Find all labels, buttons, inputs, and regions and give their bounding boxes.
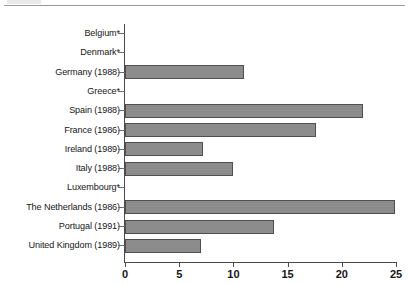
category-label: Portugal (1991) <box>4 217 120 236</box>
category-label: Germany (1988) <box>4 63 120 82</box>
x-axis-line <box>124 262 396 263</box>
bar <box>125 104 363 118</box>
x-axis-tick-label: 10 <box>213 268 253 280</box>
category-label: The Netherlands (1986) <box>4 198 120 217</box>
y-axis-tick <box>118 187 125 188</box>
y-axis-tick <box>118 207 125 208</box>
y-axis-tick <box>118 245 125 246</box>
x-axis-tick-label: 5 <box>159 268 199 280</box>
y-axis-tick <box>118 52 125 53</box>
bar <box>125 220 274 234</box>
bar <box>125 239 201 253</box>
x-axis-tick <box>179 262 180 267</box>
category-label: Belgium* <box>4 24 120 43</box>
x-axis-tick-label: 15 <box>268 268 308 280</box>
bar-row: Germany (1988) <box>0 63 409 82</box>
figure: Belgium*Denmark*Germany (1988)Greece*Spa… <box>0 0 409 284</box>
x-axis-tick-label: 25 <box>376 268 409 280</box>
category-label: Italy (1988) <box>4 159 120 178</box>
category-label: France (1986) <box>4 121 120 140</box>
bar-row: Luxembourg* <box>0 178 409 197</box>
bar-row: Spain (1988) <box>0 101 409 120</box>
x-axis-tick-label: 0 <box>105 268 145 280</box>
x-axis-tick <box>342 262 343 267</box>
bar <box>125 162 233 176</box>
category-label: Denmark* <box>4 43 120 62</box>
bar-row: Portugal (1991) <box>0 217 409 236</box>
bar <box>125 123 316 137</box>
x-axis-tick <box>125 262 126 267</box>
y-axis-tick <box>118 168 125 169</box>
category-label: Greece* <box>4 82 120 101</box>
category-label: United Kingdom (1989) <box>4 236 120 255</box>
y-axis-tick <box>118 149 125 150</box>
y-axis-tick <box>118 110 125 111</box>
category-label: Spain (1988) <box>4 101 120 120</box>
y-axis-tick <box>118 130 125 131</box>
bar-chart-plot-area: Belgium*Denmark*Germany (1988)Greece*Spa… <box>0 0 409 284</box>
x-axis-tick <box>396 262 397 267</box>
category-label: Luxembourg* <box>4 178 120 197</box>
bar <box>125 65 244 79</box>
y-axis-tick <box>118 72 125 73</box>
bar-row: France (1986) <box>0 121 409 140</box>
bar <box>125 142 203 156</box>
x-axis-tick <box>233 262 234 267</box>
y-axis-tick <box>118 91 125 92</box>
bar-row: Belgium* <box>0 24 409 43</box>
bar-row: The Netherlands (1986) <box>0 198 409 217</box>
category-label: Ireland (1989) <box>4 140 120 159</box>
bar-row: Denmark* <box>0 43 409 62</box>
x-axis-tick <box>288 262 289 267</box>
bar-row: Italy (1988) <box>0 159 409 178</box>
y-axis-tick <box>118 226 125 227</box>
bar-row: Ireland (1989) <box>0 140 409 159</box>
bar-row: United Kingdom (1989) <box>0 236 409 255</box>
bar-row: Greece* <box>0 82 409 101</box>
x-axis-tick-label: 20 <box>322 268 362 280</box>
bar <box>125 200 395 214</box>
y-axis-tick <box>118 33 125 34</box>
